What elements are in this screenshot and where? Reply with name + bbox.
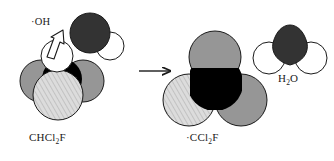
atom-fluorine-front — [33, 70, 83, 120]
water-formula-subscript: 2 — [286, 78, 290, 87]
water-formula-main: H — [278, 72, 286, 84]
product-formula-main: ·CCl — [186, 131, 208, 143]
molecule-water — [253, 25, 327, 74]
atom-oxygen-hydroxyl — [70, 13, 110, 53]
reactant-formula-tail: F — [59, 131, 65, 143]
label-product-formula: ·CCl2F — [186, 131, 218, 143]
product-formula-subscript: 2 — [208, 137, 212, 146]
label-reactant-formula: CHCl2F — [29, 131, 66, 143]
product-formula-tail: F — [212, 131, 218, 143]
molecule-hydroxyl-radical — [70, 13, 124, 60]
atom-oxygen-water — [273, 25, 308, 65]
reactant-formula-main: CHCl — [29, 131, 55, 143]
molecule-ccl2f-radical — [163, 31, 267, 126]
water-formula-tail: O — [290, 72, 298, 84]
reaction-diagram: ·OH CHCl2F ·CCl2F H2O — [0, 0, 334, 161]
label-water-formula: H2O — [278, 72, 298, 84]
label-hydroxyl-radical: ·OH — [31, 16, 50, 27]
reactant-formula-subscript: 2 — [55, 137, 59, 146]
